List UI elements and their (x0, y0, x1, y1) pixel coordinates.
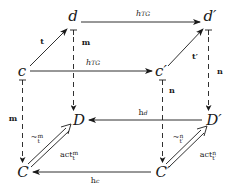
node-D-prime: D′ (206, 113, 221, 128)
arrow-c-to-d (30, 29, 67, 66)
label-sim-m-t: ~mt (31, 133, 43, 144)
label-m-left: m (9, 114, 17, 122)
arrow-dprime-to-Dprime (205, 30, 212, 110)
label-act-n-tprime: actnt′ (200, 150, 216, 161)
commutative-cube-diagram: d d′ c c′ D D′ C C′ t t′ m m n n hTG hTG… (0, 0, 239, 189)
node-d: d (68, 9, 78, 24)
label-n-mid: n (169, 86, 175, 94)
label-h-TG-top: hTG (136, 10, 150, 18)
arrow-cprime-to-Cprime (159, 80, 166, 162)
double-arrow-C-to-D (28, 124, 71, 167)
label-sim-n-tprime: ~nt′ (173, 133, 184, 144)
label-t-prime: t′ (192, 52, 198, 60)
node-C: C (17, 165, 28, 180)
label-m-top: m (82, 38, 90, 46)
label-h-c: hc (91, 177, 100, 185)
node-C-prime: C′ (156, 165, 171, 180)
label-h-d: hd (139, 109, 148, 117)
node-c-prime: c′ (155, 64, 167, 79)
label-h-TG-mid: hTG (86, 59, 100, 67)
diagram-arrows (0, 0, 239, 189)
node-D: D (73, 113, 85, 128)
label-n-right: n (217, 67, 223, 75)
label-act-m-t: actmt (60, 150, 78, 161)
arrow-c-to-C (19, 80, 26, 162)
arrow-d-to-D (70, 30, 77, 110)
node-d-prime: d′ (203, 9, 216, 24)
label-t: t (40, 37, 44, 45)
node-c: c (18, 64, 26, 79)
